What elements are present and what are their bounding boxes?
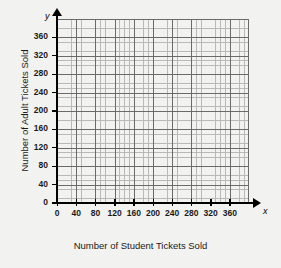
y-tick <box>52 92 58 93</box>
x-tick <box>133 199 134 206</box>
x-tick <box>229 199 230 206</box>
y-tick <box>52 184 58 185</box>
x-tick <box>95 199 96 206</box>
x-axis-line <box>57 202 255 204</box>
y-axis-letter: y <box>45 11 50 21</box>
x-axis-letter: x <box>263 206 268 216</box>
y-tick <box>52 74 58 75</box>
y-axis-arrow-icon <box>52 8 62 16</box>
y-tick <box>52 147 58 148</box>
x-tick-label: 360 <box>215 209 245 218</box>
x-tick <box>191 199 192 206</box>
graph-figure: y x 0 40 80 120 160 200 240 280 320 360 … <box>0 0 281 268</box>
x-tick <box>76 199 77 206</box>
plot-area <box>57 19 249 203</box>
y-tick <box>52 110 58 111</box>
x-tick <box>57 199 58 206</box>
x-axis-title: Number of Student Tickets Sold <box>0 240 281 251</box>
y-axis-line <box>56 14 58 204</box>
y-tick <box>52 166 58 167</box>
major-gridlines <box>57 19 249 203</box>
grid-right-edge <box>248 19 249 203</box>
x-tick <box>210 199 211 206</box>
x-tick <box>172 199 173 206</box>
y-tick <box>52 55 58 56</box>
x-axis-arrow-icon <box>253 198 261 208</box>
y-axis-title: Number of Adult Tickets Sold <box>19 11 30 211</box>
grid-top-edge <box>57 19 249 20</box>
x-tick <box>153 199 154 206</box>
x-tick <box>114 199 115 206</box>
y-tick <box>52 37 58 38</box>
y-tick <box>52 129 58 130</box>
